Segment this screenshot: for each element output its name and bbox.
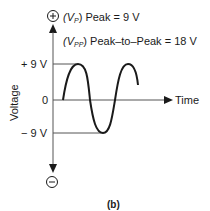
tick-label-zero: 0: [42, 94, 48, 106]
peak-annotation: (VP) Peak = 9 V: [63, 11, 140, 24]
y-axis-label: Voltage: [8, 84, 20, 121]
negative-polarity-icon: [47, 177, 58, 188]
sine-wave-diagram: (VP) Peak = 9 V (VPP) Peak–to–Peak = 18 …: [0, 0, 210, 211]
x-axis-label: Time: [175, 94, 199, 106]
tick-label-minus-9v: − 9 V: [21, 127, 48, 139]
peak-to-peak-annotation: (VPP) Peak–to–Peak = 18 V: [63, 35, 197, 48]
sine-waveform: [63, 64, 138, 133]
tick-label-plus-9v: + 9 V: [21, 58, 48, 70]
positive-polarity-icon: [48, 11, 59, 22]
voltage-axis: [49, 24, 57, 173]
figure-caption: (b): [107, 199, 120, 210]
time-axis: [53, 96, 173, 104]
